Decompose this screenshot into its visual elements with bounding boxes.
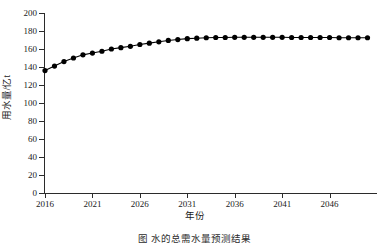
data-point (128, 44, 133, 49)
data-point (118, 45, 123, 50)
data-point (194, 36, 199, 41)
y-axis-title: 用水量/亿t (2, 58, 13, 138)
data-point (156, 39, 161, 44)
data-series-line (0, 0, 389, 243)
data-point (147, 41, 152, 46)
data-point (175, 37, 180, 42)
data-point (270, 35, 275, 40)
data-point (42, 68, 47, 73)
data-point (61, 59, 66, 64)
data-point (232, 35, 237, 40)
data-point (213, 35, 218, 40)
data-point (289, 35, 294, 40)
data-point (137, 42, 142, 47)
series-markers (42, 35, 370, 73)
data-point (52, 64, 57, 69)
data-point (166, 38, 171, 43)
data-point (327, 35, 332, 40)
data-point (109, 46, 114, 51)
data-point (99, 49, 104, 54)
data-point (71, 55, 76, 60)
data-point (317, 35, 322, 40)
data-point (251, 35, 256, 40)
data-point (90, 50, 95, 55)
data-point (204, 35, 209, 40)
data-point (185, 36, 190, 41)
data-point (80, 52, 85, 57)
data-point (308, 35, 313, 40)
figure-water-demand-forecast: 0204060801001201401601802002016202120262… (0, 0, 389, 243)
data-point (336, 35, 341, 40)
data-point (365, 35, 370, 40)
data-point (223, 35, 228, 40)
data-point (299, 35, 304, 40)
x-axis-title: 年份 (0, 211, 389, 222)
data-point (355, 35, 360, 40)
data-point (280, 35, 285, 40)
figure-caption: 图 水的总需水量预测结果 (0, 234, 389, 243)
data-point (346, 35, 351, 40)
data-point (242, 35, 247, 40)
data-point (261, 35, 266, 40)
